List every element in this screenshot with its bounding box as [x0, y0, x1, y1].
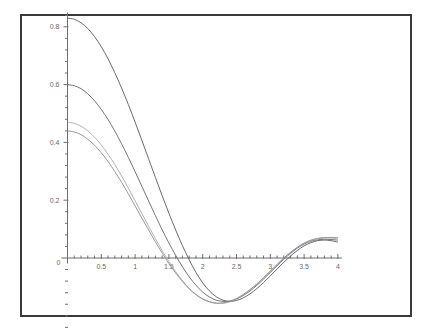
- screenshot-canvas: 0.511.522.533.540.20.40.60.80: [0, 0, 432, 331]
- plot-frame-border: [20, 14, 412, 317]
